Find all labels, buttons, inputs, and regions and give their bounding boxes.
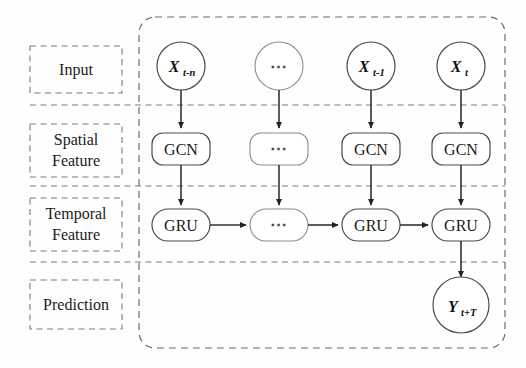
gru-node-ellipsis-label: ⋯ [270,215,288,234]
stage-label-spatial-line1: Spatial [54,131,99,149]
gru-node-t-label: GRU [444,217,478,234]
input-node-ellipsis-label: ⋯ [270,57,288,76]
input-node-t-n-var: X [168,58,180,75]
stage-label-temporal: Temporal Feature [30,198,122,251]
input-node-t-1-var: X [358,58,370,75]
stage-label-prediction-text: Prediction [43,296,109,313]
stage-label-temporal-line2: Feature [52,226,100,243]
gcn-node-t-label: GCN [444,141,478,158]
column-t: X t GCN GRU [432,42,490,241]
stage-label-temporal-line1: Temporal [45,205,107,223]
input-node-t-n-sub: t-n [183,67,195,78]
stage-label-spatial-line2: Feature [52,152,100,169]
input-node-t-n [157,42,205,90]
stage-label-input-text: Input [59,61,93,79]
gru-node-t-1-label: GRU [354,217,388,234]
output-node-var: Y [448,298,459,315]
stage-label-spatial: Spatial Feature [30,124,122,177]
gcn-node-ellipsis-label: ⋯ [270,139,288,158]
input-node-t-1-sub: t-1 [373,67,385,78]
figure-canvas: Input Spatial Feature Temporal Feature P… [0,0,526,368]
output-node [433,277,489,333]
architecture-diagram: Input Spatial Feature Temporal Feature P… [0,0,526,368]
stage-label-input: Input [30,46,122,93]
output-node-sub: t+T [461,307,477,318]
gcn-node-t-1-label: GCN [354,141,388,158]
gcn-node-t-n-label: GCN [164,141,198,158]
column-ellipsis: ⋯ ⋯ ⋯ [250,42,308,241]
input-node-t-var: X [450,58,462,75]
column-t-1: X t-1 GCN GRU [342,42,400,241]
stage-label-prediction: Prediction [30,280,122,329]
input-node-t-1 [347,42,395,90]
gru-node-t-n-label: GRU [164,217,198,234]
column-t-n: X t-n GCN GRU [152,42,210,241]
